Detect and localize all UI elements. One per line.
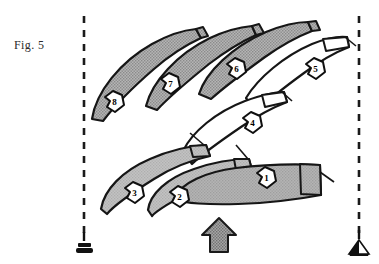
figure-canvas: 8 7 6 5 4 <box>0 0 379 264</box>
boat-tiller-1 <box>320 172 334 182</box>
pin-flag-marker[interactable] <box>349 230 369 256</box>
wind-arrow-shape <box>202 218 236 252</box>
pin-flag-base <box>349 254 369 256</box>
committee-boat-deck <box>78 243 91 247</box>
committee-boat-hull <box>76 248 93 253</box>
badge-label-5: 5 <box>313 64 318 74</box>
badge-label-3: 3 <box>132 188 137 198</box>
badge-label-7: 7 <box>168 79 173 89</box>
wind-direction-arrow <box>202 218 236 252</box>
boat-tiller-2 <box>236 145 248 159</box>
badge-label-1: 1 <box>264 173 269 183</box>
boat-transom-3 <box>190 145 210 157</box>
diagram-svg: 8 7 6 5 4 <box>0 0 379 264</box>
boat-transom-4 <box>262 92 287 107</box>
badge-label-8: 8 <box>112 97 117 107</box>
boat-transom-1 <box>300 164 321 195</box>
badge-label-6: 6 <box>234 64 239 74</box>
committee-boat-marker[interactable] <box>76 232 93 253</box>
badge-label-2: 2 <box>177 192 182 202</box>
badge-label-4: 4 <box>250 118 255 128</box>
figure-label: Fig. 5 <box>14 38 44 53</box>
